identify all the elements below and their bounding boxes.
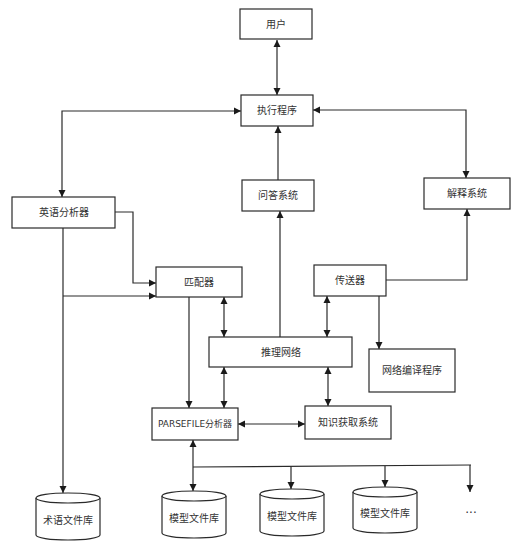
- node-network-compiler: 网络编译程序: [369, 349, 455, 392]
- node-label: 匹配器: [184, 277, 214, 288]
- edge-executor-english-analyzer: [62, 111, 241, 197]
- edge-transmitter-to-explanation: [386, 209, 467, 280]
- node-label: 用户: [266, 18, 286, 30]
- node-explanation-system: 解释系统: [424, 178, 510, 209]
- more-ellipsis: ...: [465, 502, 476, 516]
- node-inference-network: 推理网络: [209, 337, 352, 367]
- node-model-library-2: 模型文件库: [260, 489, 324, 536]
- node-user: 用户: [240, 9, 312, 39]
- node-label: 知识获取系统: [318, 416, 378, 428]
- node-parsefile-analyzer: PARSEFILE分析器: [152, 408, 238, 440]
- node-label: 网络编译程序: [382, 364, 442, 376]
- node-label: 问答系统: [258, 189, 298, 201]
- node-label: 模型文件库: [267, 510, 317, 522]
- node-matcher: 匹配器: [156, 267, 242, 297]
- architecture-diagram: 用户 执行程序 英语分析器 问答系统 解释系统 匹配器 传送器 推理网络 网络编…: [0, 0, 517, 550]
- node-label: 模型文件库: [169, 512, 219, 524]
- node-knowledge-acquisition: 知识获取系统: [305, 406, 391, 439]
- node-label: 执行程序: [257, 104, 297, 116]
- node-label: 模型文件库: [360, 507, 410, 519]
- node-model-library-3: 模型文件库: [353, 487, 417, 533]
- node-english-analyzer: 英语分析器: [12, 197, 115, 228]
- node-qa-system: 问答系统: [242, 180, 314, 211]
- node-label: 推理网络: [261, 346, 301, 358]
- node-transmitter: 传送器: [314, 265, 386, 296]
- node-label: 传送器: [335, 274, 365, 286]
- edge-executor-explanation-system: [313, 110, 466, 178]
- model-library-bus: [193, 465, 471, 467]
- node-model-library-1: 模型文件库: [162, 491, 226, 538]
- node-executor: 执行程序: [241, 95, 313, 126]
- node-label: PARSEFILE分析器: [158, 418, 232, 429]
- node-label: 解释系统: [447, 187, 487, 199]
- edge-english-to-matcher: [115, 212, 156, 283]
- node-term-library: 术语文件库: [36, 493, 100, 540]
- node-label: 术语文件库: [43, 514, 93, 526]
- node-label: 英语分析器: [39, 206, 89, 218]
